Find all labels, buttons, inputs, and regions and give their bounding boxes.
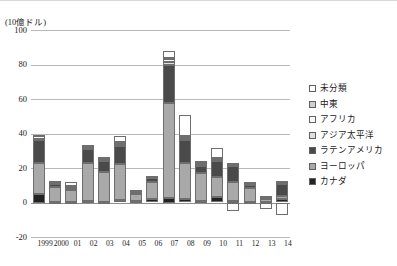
legend-item-0[interactable]: 未分類 [309,81,383,97]
bar-segment [33,140,45,162]
bar-column-06[interactable] [146,30,158,237]
bar-column-10[interactable] [211,30,223,237]
legend-swatch-icon [309,101,316,108]
bar-segment-negative [227,203,239,212]
bar-segment-negative [260,203,272,210]
bar-segment [82,145,94,147]
bar-segment [163,103,175,198]
bar-segment [195,163,207,165]
legend-label: ラテンアメリカ [320,146,383,155]
legend-item-5[interactable]: ヨーロッパ [309,159,383,175]
bar-segment [130,201,142,203]
bar-column-08[interactable] [179,30,191,237]
legend-label: ヨーロッパ [320,162,365,171]
bar-segment [179,163,191,199]
legend-item-3[interactable]: アジア太平洋 [309,128,383,144]
bar-segment [146,176,158,178]
bar-segment [98,202,110,204]
bar-segment-negative [276,203,288,215]
bar-segment [244,202,256,204]
bar-segment [179,136,191,138]
bar-column-14[interactable] [276,30,288,237]
bar-segment [163,198,175,202]
chart-legend: 未分類中東アフリカアジア太平洋ラテンアメリカヨーロッパカナダ [309,81,383,190]
bar-segment [276,184,288,197]
bar-segment [114,164,126,200]
bar-segment [98,161,110,172]
bar-segment [82,149,94,163]
bar-segment [179,115,191,136]
bar-segment [179,139,191,141]
bar-segment [211,197,223,202]
bar-column-12[interactable] [244,30,256,237]
bar-segment [82,201,94,203]
bar-segment [195,161,207,163]
y-axis-tick-100: 100 [3,26,27,35]
legend-item-4[interactable]: ラテンアメリカ [309,143,383,159]
y-axis-tick-40: 40 [3,129,27,138]
bar-column-07[interactable] [163,30,175,237]
bar-segment [146,182,158,199]
legend-item-2[interactable]: アフリカ [309,112,383,128]
legend-label: カナダ [320,177,347,186]
x-axis-tick-14: 14 [273,240,303,248]
bar-segment [49,202,61,204]
bar-segment [146,199,158,202]
bar-segment [211,158,223,160]
legend-swatch-icon [309,85,316,92]
bar-segment [195,201,207,203]
bar-segment [65,186,77,188]
legend-swatch-icon [309,163,316,170]
bar-segment [179,140,191,162]
bar-segment [33,163,45,194]
bar-column-03[interactable] [98,30,110,237]
bar-segment [65,182,77,186]
bar-column-02[interactable] [82,30,94,237]
bar-segment [244,182,256,184]
legend-item-6[interactable]: カナダ [309,174,383,190]
bar-segment [33,135,45,137]
bar-segment [130,190,142,192]
bar-segment [227,163,239,165]
bar-segment [227,166,239,182]
bar-segment [114,136,126,142]
plot-area: 100806040200-201999200001020304050607080… [31,30,290,237]
bar-segment [260,196,272,198]
bar-column-2000[interactable] [49,30,61,237]
legend-label: アジア太平洋 [320,131,374,140]
chart-figure: (10億ドル) 100806040200-2019992000010203040… [0,0,397,266]
bar-column-11[interactable] [227,30,239,237]
bar-segment [65,202,77,204]
bar-segment [98,172,110,201]
bar-segment [227,182,239,201]
legend-swatch-icon [309,178,316,185]
bar-column-1999[interactable] [33,30,45,237]
bar-segment [211,161,223,177]
bar-segment [244,188,256,202]
bar-segment [163,59,175,62]
bar-column-01[interactable] [65,30,77,237]
bar-segment [179,199,191,202]
y-axis-tick-0: 0 [3,198,27,207]
bar-segment [49,181,61,183]
bar-column-09[interactable] [195,30,207,237]
bar-segment [114,200,126,203]
bar-segment [49,187,61,202]
legend-swatch-icon [309,147,316,154]
bar-segment [163,58,175,60]
bar-segment [211,177,223,198]
bar-segment [114,146,126,163]
bar-segment [114,145,126,147]
bar-column-04[interactable] [114,30,126,237]
y-axis-tick-80: 80 [3,60,27,69]
legend-swatch-icon [309,132,316,139]
bar-column-13[interactable] [260,30,272,237]
legend-label: 中東 [320,100,338,109]
legend-swatch-icon [309,116,316,123]
bar-segment [82,163,94,201]
bar-segment [163,51,175,58]
bar-segment [114,142,126,144]
bar-segment [195,173,207,201]
legend-item-1[interactable]: 中東 [309,97,383,113]
bar-column-05[interactable] [130,30,142,237]
